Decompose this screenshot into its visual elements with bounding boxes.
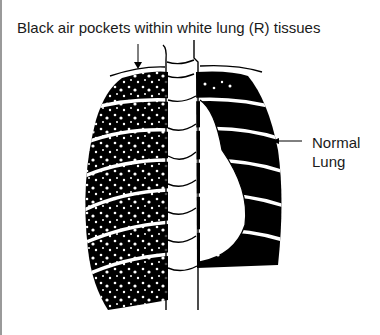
top-rib-left bbox=[200, 66, 262, 72]
left-lung-normal bbox=[190, 72, 290, 269]
right-lung-speckled bbox=[80, 72, 170, 310]
lung-diagram bbox=[0, 0, 380, 335]
arrow-icon-title bbox=[134, 44, 142, 69]
spine bbox=[163, 40, 198, 310]
